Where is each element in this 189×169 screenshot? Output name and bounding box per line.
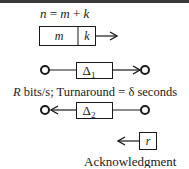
delay2-label: Δ2 [83, 103, 96, 120]
acknowledgment: r Acknowledgment [84, 133, 177, 169]
diagram-canvas: n = m + k m k Δ1 R bits/s; Turnaround = … [0, 0, 189, 168]
ack-caption: Acknowledgment [84, 154, 177, 168]
sender-node-icon [41, 66, 49, 74]
receiver-node-icon [141, 66, 149, 74]
receiver-node-icon [141, 106, 149, 114]
frame-k-label: k [84, 29, 90, 43]
top-border [0, 0, 189, 3]
ack-r-label: r [146, 134, 151, 148]
frame-m-label: m [55, 29, 64, 43]
frame-box: m k [40, 27, 96, 46]
link-diagram: n = m + k m k Δ1 R bits/s; Turnaround = … [0, 0, 189, 168]
delay1-label: Δ1 [83, 63, 96, 80]
sender-node-icon [41, 106, 49, 114]
rate-turnaround-text: R bits/s; Turnaround = δ seconds [12, 85, 177, 99]
reverse-channel: Δ2 [41, 103, 149, 121]
forward-channel: Δ1 [41, 63, 149, 81]
formula-text: n = m + k [40, 6, 90, 21]
